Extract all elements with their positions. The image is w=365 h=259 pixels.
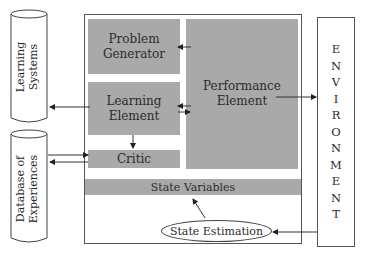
arrow-estimation-to-vars-icon [193,199,205,218]
arrow-layer [0,0,365,259]
